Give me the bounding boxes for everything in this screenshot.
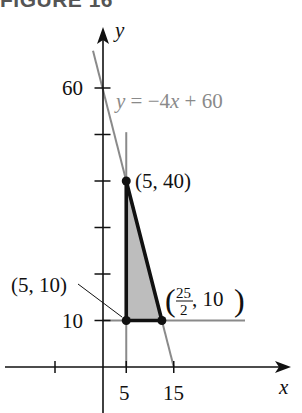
fraction-numerator: 25 [176,285,191,301]
y-tick-label-60: 60 [62,76,83,100]
equation-label: y = −4x + 60 [114,89,223,113]
eq-y: y [114,89,126,113]
close-paren: ) [234,282,245,318]
eq-tail: + 60 [179,89,222,113]
point-label-12-5-10: ( 25 2 , 10 ) [165,282,245,318]
x-axis-label: x [278,375,289,399]
linear-programming-graph: y x 60 10 5 15 y = −4x + 60 (5, 40) (5, … [0,0,302,413]
leader-line-5-10 [78,284,122,317]
label-rest: , 10 [192,287,224,311]
point-label-5-40: (5, 40) [135,169,191,193]
point-label-5-10: (5, 10) [11,273,67,297]
open-paren: ( [165,282,176,318]
eq-rest: = −4 [125,89,170,113]
x-tick-label-15: 15 [163,381,184,405]
y-tick-label-10: 10 [62,309,83,333]
fraction-denominator: 2 [180,302,188,318]
vertex-point [122,316,131,325]
x-tick-label-5: 5 [119,381,130,405]
vertex-point [122,177,131,186]
y-axis-label: y [113,18,125,42]
